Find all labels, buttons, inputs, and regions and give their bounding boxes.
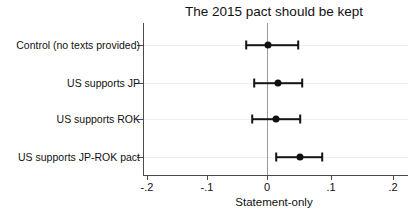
ci-cap-high-row-1 bbox=[297, 41, 299, 50]
category-label-us-supports-jp: US supports JP bbox=[67, 77, 140, 89]
x-tick-label-02: .2 bbox=[388, 181, 397, 193]
x-tick-0 bbox=[267, 175, 268, 180]
ci-cap-high-row-3 bbox=[299, 115, 301, 124]
ci-cap-high-row-4 bbox=[321, 153, 323, 162]
coefficient-plot-figure: The 2015 pact should be kept Control (no… bbox=[0, 0, 415, 224]
x-tick-label-0: 0 bbox=[264, 181, 270, 193]
x-tick-neg-01 bbox=[207, 175, 208, 180]
x-axis-title: Statement-only bbox=[143, 196, 405, 208]
category-label-us-supports-rok: US supports ROK bbox=[57, 113, 140, 125]
x-tick-label-01: .1 bbox=[326, 181, 335, 193]
x-tick-label-neg-02: -.2 bbox=[141, 181, 154, 193]
ci-cap-low-row-2 bbox=[253, 79, 255, 88]
ci-cap-low-row-1 bbox=[245, 41, 247, 50]
x-tick-01 bbox=[331, 175, 332, 180]
category-label-control: Control (no texts provided) bbox=[16, 39, 140, 51]
x-tick-neg-02 bbox=[147, 175, 148, 180]
ci-cap-high-row-2 bbox=[301, 79, 303, 88]
x-axis-line bbox=[143, 175, 408, 176]
x-tick-02 bbox=[393, 175, 394, 180]
y-axis-line bbox=[143, 23, 144, 175]
estimate-point-row-4 bbox=[297, 154, 304, 161]
chart-title: The 2015 pact should be kept bbox=[143, 4, 405, 19]
ci-cap-low-row-4 bbox=[275, 153, 277, 162]
category-label-us-supports-jp-rok-pact: US supports JP-ROK pact bbox=[18, 151, 140, 163]
estimate-point-row-3 bbox=[273, 116, 280, 123]
x-tick-label-neg-01: -.1 bbox=[201, 181, 214, 193]
ci-line-row-1 bbox=[246, 44, 298, 46]
ci-cap-low-row-3 bbox=[251, 115, 253, 124]
estimate-point-row-1 bbox=[265, 42, 272, 49]
estimate-point-row-2 bbox=[275, 80, 282, 87]
